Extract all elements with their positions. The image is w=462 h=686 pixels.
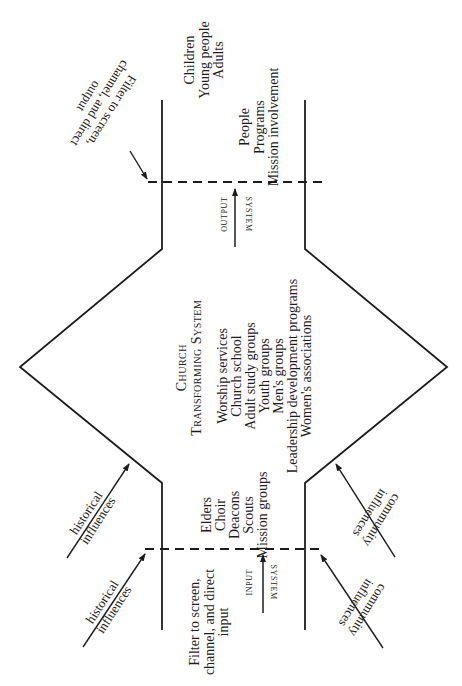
output-system-label-2: SYSTEM (244, 189, 252, 239)
title-church: Church (175, 293, 190, 443)
item-leadership: Leadership development programs (286, 261, 300, 491)
input-filter-label: Filter to screen, channel, and direct in… (188, 552, 232, 686)
item-church-school: Church school (230, 261, 244, 491)
input-item-mission: Mission groups (256, 460, 270, 570)
output-item-mission: Mission involvement (267, 62, 282, 192)
input-system-label-1: INPUT (246, 559, 254, 605)
output-item-people: People (238, 62, 253, 192)
title-transforming-system: Transforming System (190, 293, 205, 443)
output-item-programs: Programs (253, 62, 268, 192)
input-filter-line2: channel, and direct (203, 552, 218, 686)
recipient-adults: Adults (212, 20, 227, 100)
input-filter-line3: input (217, 552, 232, 686)
item-mens: Men's groups (272, 261, 286, 491)
system-title: Church Transforming System (175, 293, 204, 443)
input-item-scouts: Scouts (242, 460, 256, 570)
recipient-children: Children (183, 20, 198, 100)
item-youth: Youth groups (258, 261, 272, 491)
input-system-label-2: SYSTEM (269, 557, 277, 607)
item-worship: Worship services (216, 261, 230, 491)
input-filter-line1: Filter to screen, (188, 552, 203, 686)
transforming-items: Worship services Church school Adult stu… (216, 261, 314, 491)
output-recipients: Children Young people Adults (183, 20, 227, 100)
output-items: People Programs Mission involvement (238, 62, 282, 192)
item-adult-study: Adult study groups (244, 261, 258, 491)
item-womens: Women's associations (300, 261, 314, 491)
system-boundary-left (20, 100, 162, 630)
output-filter-pointer-arrow (130, 151, 147, 179)
output-system-label-1: OUTPUT (221, 189, 229, 239)
system-boundary-right (305, 100, 447, 630)
recipient-young-people: Young people (198, 20, 213, 100)
